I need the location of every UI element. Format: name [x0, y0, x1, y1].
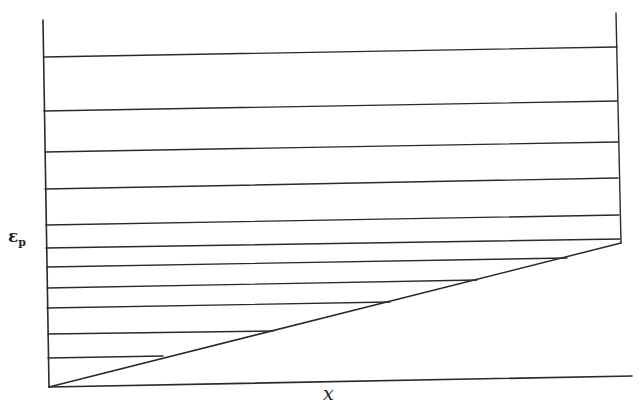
horizontal-line-8 — [47, 280, 477, 288]
diagonal-line — [49, 243, 621, 387]
y-axis-label-subscript: p — [18, 236, 26, 249]
horizontal-line-10 — [48, 331, 273, 334]
x-axis-label: x — [323, 382, 334, 404]
axes — [43, 13, 632, 387]
horizontal-line-6 — [46, 239, 620, 248]
y-axis-label: εp — [8, 226, 26, 249]
horizontal-line-4 — [45, 178, 618, 189]
horizontal-lines — [44, 47, 620, 358]
horizontal-line-2 — [44, 101, 617, 111]
horizontal-line-5 — [46, 215, 619, 225]
horizontal-line-9 — [47, 302, 390, 308]
horizontal-line-7 — [47, 258, 567, 267]
diagram-canvas — [0, 0, 641, 410]
y-axis-label-symbol: ε — [8, 226, 18, 246]
x-axis-line — [49, 376, 632, 387]
horizontal-line-1 — [44, 47, 617, 57]
horizontal-line-3 — [45, 142, 618, 152]
horizontal-line-11 — [48, 356, 163, 358]
y-axis-line — [43, 20, 49, 387]
